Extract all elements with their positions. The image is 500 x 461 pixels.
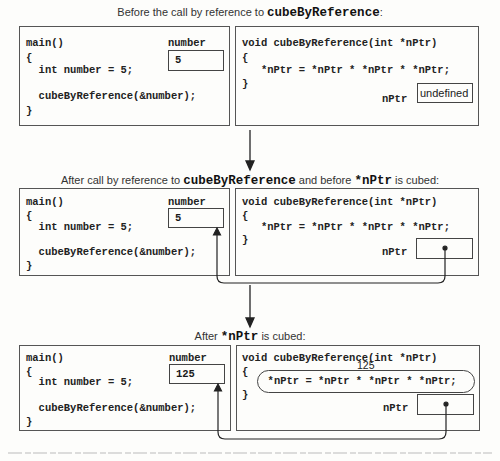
stage-3-pointer-arrow	[215, 384, 449, 439]
down-arrow-2	[246, 285, 254, 327]
connectors	[0, 0, 500, 461]
down-arrow-1	[246, 130, 254, 170]
stage-2-pointer-arrow	[214, 228, 448, 283]
